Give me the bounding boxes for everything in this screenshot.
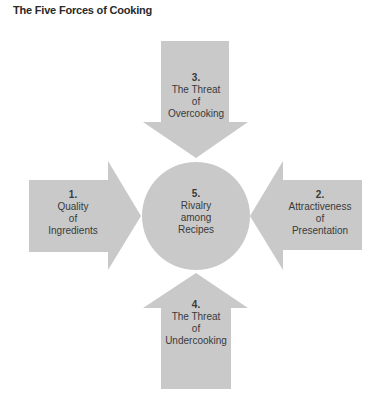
force-number: 3.	[150, 72, 242, 84]
force-text-line: Ingredients	[30, 225, 116, 237]
force-text-line: of	[150, 323, 242, 335]
force-text-line: The Threat	[150, 84, 242, 96]
force-label-left: 1. Quality of Ingredients	[30, 189, 116, 237]
force-text-line: Rivalry	[150, 200, 242, 212]
force-text-line: Undercooking	[150, 335, 242, 347]
force-text-line: of	[150, 96, 242, 108]
force-text-line: among	[150, 212, 242, 224]
force-text-line: of	[30, 213, 116, 225]
force-number: 1.	[30, 189, 116, 201]
force-number: 2.	[268, 189, 372, 201]
force-number: 4.	[150, 299, 242, 311]
force-text-line: Quality	[30, 201, 116, 213]
force-label-bottom: 4. The Threat of Undercooking	[150, 299, 242, 347]
force-label-top: 3. The Threat of Overcooking	[150, 72, 242, 120]
force-text-line: of	[268, 213, 372, 225]
force-number: 5.	[150, 188, 242, 200]
force-text-line: The Threat	[150, 311, 242, 323]
force-text-line: Presentation	[268, 225, 372, 237]
force-text-line: Recipes	[150, 224, 242, 236]
force-text-line: Attractiveness	[268, 201, 372, 213]
force-label-center: 5. Rivalry among Recipes	[150, 188, 242, 236]
force-text-line: Overcooking	[150, 108, 242, 120]
force-label-right: 2. Attractiveness of Presentation	[268, 189, 372, 237]
